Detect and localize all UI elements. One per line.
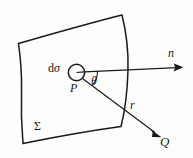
label-area-element: dσ: [48, 62, 60, 74]
label-area-element-sigma: σ: [54, 61, 60, 75]
label-point-q: Q: [160, 135, 169, 148]
label-surface-sigma: Σ: [34, 120, 41, 132]
label-angle-theta: θ: [91, 75, 97, 87]
label-normal-vector: n: [168, 47, 174, 59]
point-p-marker: [77, 72, 85, 73]
normal-vector-line: [85, 68, 178, 72]
label-r-vector: r: [130, 99, 135, 111]
surface-element-figure: dσ P θ n r Q Σ: [0, 0, 193, 158]
label-point-p: P: [70, 82, 77, 94]
